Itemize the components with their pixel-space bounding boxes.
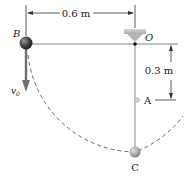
label-c: C [131,162,139,173]
label-o: O [145,32,153,43]
horizontal-dimension: 0.6 m [26,5,135,36]
horizontal-dimension-label: 0.6 m [62,8,91,19]
ball-c [130,147,141,158]
vertical-dimension: 0.3 m [145,45,176,100]
label-v0: v0 [11,86,20,97]
label-a: A [143,95,152,106]
vertical-dimension-label: 0.3 m [145,65,174,76]
label-b: B [12,28,20,39]
pivot-support [124,29,146,42]
point-a-marker [135,98,140,103]
pivot-point-o [133,42,137,46]
velocity-arrow-v0 [22,48,30,92]
pendulum-diagram: 0.6 m O 0.3 m A v0 B C [0,0,188,179]
ball-b [20,37,33,50]
